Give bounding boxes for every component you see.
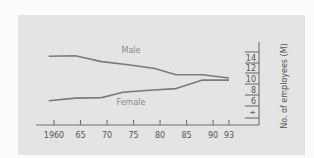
y-tick-label: 6 <box>251 97 256 106</box>
x-tick-label: 75 <box>128 131 138 140</box>
y-axis: 14121086≁ <box>245 42 259 125</box>
y-axis-title: No. of employees (M) <box>280 43 289 128</box>
axis-break-icon: ≁ <box>249 108 256 117</box>
x-tick-label: 85 <box>181 131 191 140</box>
y-tick-label: 12 <box>246 64 256 73</box>
x-tick-label: 93 <box>224 131 234 140</box>
y-tick-label: 14 <box>246 54 256 63</box>
x-tick-label: 70 <box>102 131 112 140</box>
y-tick-label: 8 <box>251 86 256 95</box>
male-series-label: Male <box>122 46 141 55</box>
x-tick-label: 90 <box>208 131 218 140</box>
line-chart: 196065707580859093 14121086≁ Male Female… <box>0 0 314 158</box>
series-layer <box>49 56 229 101</box>
x-tick-label: 1960 <box>44 131 64 140</box>
x-axis: 196065707580859093 <box>36 120 259 140</box>
x-tick-label: 80 <box>155 131 165 140</box>
male-series-line <box>49 56 229 78</box>
female-series-label: Female <box>117 98 146 107</box>
x-tick-label: 65 <box>75 131 85 140</box>
y-tick-label: 10 <box>246 75 256 84</box>
